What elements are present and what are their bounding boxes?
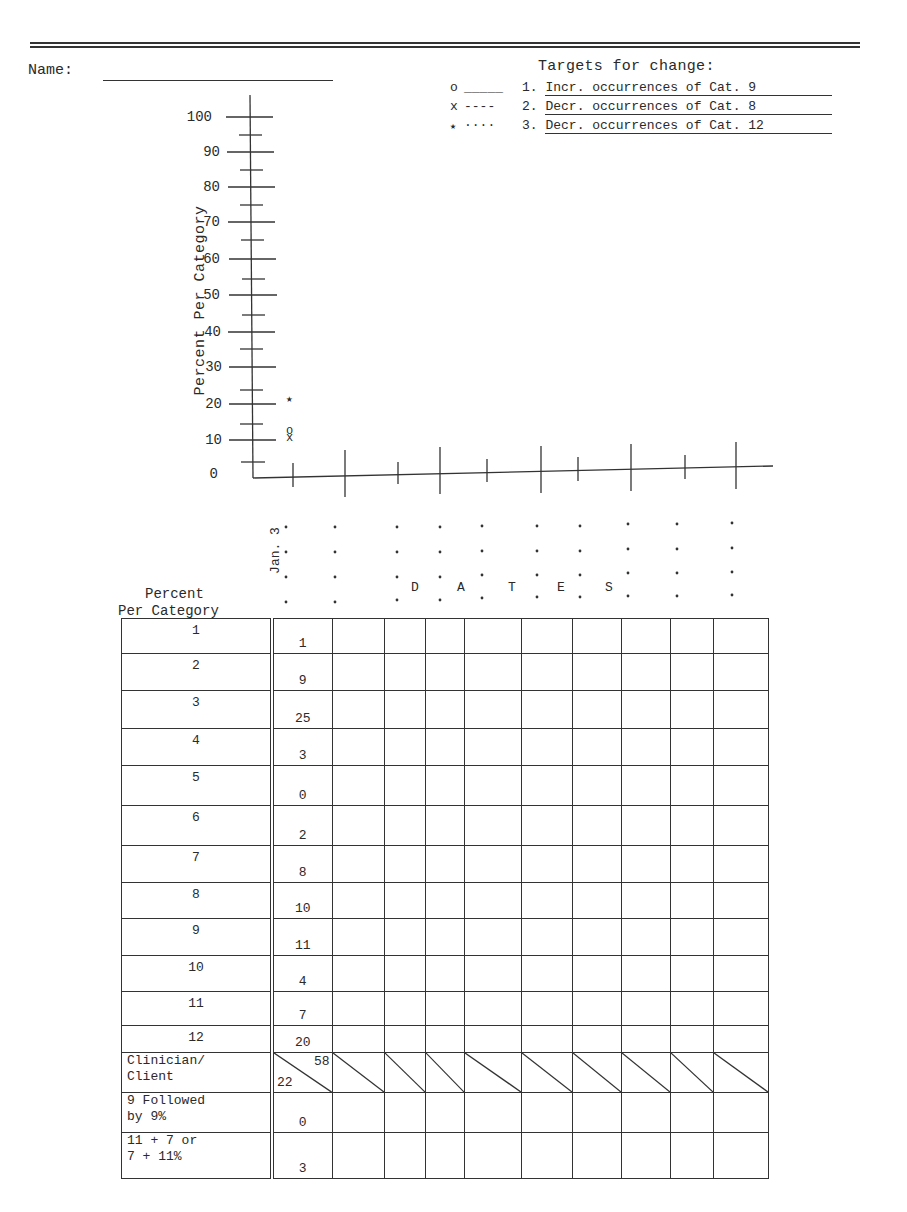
diagonal-divider	[522, 1053, 572, 1092]
category-value[interactable]: 7	[272, 992, 332, 1026]
dates-letter: E	[557, 580, 565, 595]
table-row: 7 8	[122, 846, 769, 883]
category-value[interactable]: 20	[272, 1026, 332, 1053]
eleven-seven-row: 11 + 7 or 7 + 11% 3	[122, 1133, 769, 1179]
category-label: 12	[122, 1026, 273, 1053]
diagonal-divider	[622, 1053, 670, 1092]
category-label: 11	[122, 992, 273, 1026]
table-row: 10 4	[122, 956, 769, 992]
eleven-seven-label: 11 + 7 or 7 + 11%	[122, 1133, 273, 1179]
diagonal-divider	[333, 1053, 384, 1092]
category-value[interactable]: 3	[272, 729, 332, 766]
table-row: 1 1	[122, 619, 769, 654]
category-value[interactable]: 2	[272, 806, 332, 846]
category-label: 9	[122, 919, 273, 956]
nine-followed-row: 9 Followed by 9% 0	[122, 1093, 769, 1133]
nine-followed-value[interactable]: 0	[272, 1093, 332, 1133]
diagonal-divider	[385, 1053, 425, 1092]
category-value[interactable]: 9	[272, 654, 332, 691]
table-header-label-2: Per Category	[118, 603, 219, 619]
clinician-client-row: Clinician/ Client 58 22	[122, 1053, 769, 1093]
diagonal-divider	[465, 1053, 521, 1092]
category-value[interactable]: 1	[272, 619, 332, 654]
table-row: 3 25	[122, 691, 769, 729]
table-row: 12 20	[122, 1026, 769, 1053]
clinician-value: 58	[314, 1054, 330, 1069]
category-label: 3	[122, 691, 273, 729]
table-row: 5 0	[122, 766, 769, 806]
category-label: 4	[122, 729, 273, 766]
dates-letter: T	[508, 580, 516, 595]
eleven-seven-value[interactable]: 3	[272, 1133, 332, 1179]
clinician-client-label: Clinician/ Client	[122, 1053, 273, 1093]
dates-letter: S	[605, 580, 613, 595]
table-row: 4 3	[122, 729, 769, 766]
date-label-jan-3: Jan. 3	[268, 527, 283, 574]
category-label: 10	[122, 956, 273, 992]
category-value[interactable]: 4	[272, 956, 332, 992]
category-value[interactable]: 0	[272, 766, 332, 806]
category-value[interactable]: 10	[272, 883, 332, 919]
table-header-label: Percent	[145, 586, 204, 602]
nine-followed-label: 9 Followed by 9%	[122, 1093, 273, 1133]
category-label: 5	[122, 766, 273, 806]
table-row: 6 2	[122, 806, 769, 846]
category-value[interactable]: 11	[272, 919, 332, 956]
category-label: 7	[122, 846, 273, 883]
category-label: 8	[122, 883, 273, 919]
category-table: 1 1 2 9 3 25 4 3 5 0 6 2 7 8 8 10 9 11	[121, 618, 769, 1179]
dates-letter: A	[457, 580, 465, 595]
diagonal-divider	[671, 1053, 713, 1092]
dates-letter: D	[411, 580, 419, 595]
category-label: 1	[122, 619, 273, 654]
category-value[interactable]: 8	[272, 846, 332, 883]
table-row: 2 9	[122, 654, 769, 691]
table-row: 8 10	[122, 883, 769, 919]
category-label: 6	[122, 806, 273, 846]
diagonal-divider	[573, 1053, 621, 1092]
diagonal-divider	[714, 1053, 768, 1092]
client-value: 22	[277, 1075, 293, 1090]
diagonal-divider	[426, 1053, 464, 1092]
table-row: 11 7	[122, 992, 769, 1026]
clinician-client-value[interactable]: 58 22	[272, 1053, 332, 1093]
table-row: 9 11	[122, 919, 769, 956]
category-value[interactable]: 25	[272, 691, 332, 729]
category-label: 2	[122, 654, 273, 691]
